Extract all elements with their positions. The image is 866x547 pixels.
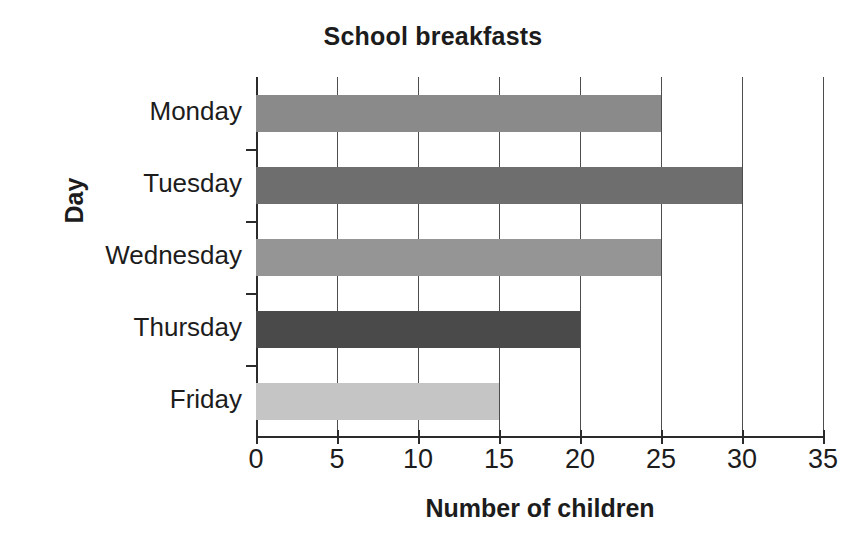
bar-tuesday: [256, 167, 742, 204]
bar-monday: [256, 95, 661, 132]
y-tick-mark-4: [246, 365, 258, 367]
gridline-30: [742, 77, 743, 437]
x-tick-mark-15: [499, 430, 501, 444]
x-tick-label-0: 0: [226, 444, 286, 475]
bar-chart: School breakfasts Day 05101520253035 Mon…: [0, 0, 866, 547]
bar-friday: [256, 383, 499, 420]
y-category-label-tuesday: Tuesday: [0, 168, 242, 199]
x-tick-label-25: 25: [631, 444, 691, 475]
bar-thursday: [256, 311, 580, 348]
x-tick-mark-20: [580, 430, 582, 444]
x-tick-mark-5: [337, 430, 339, 444]
x-axis-title: Number of children: [256, 494, 824, 523]
x-tick-label-15: 15: [469, 444, 529, 475]
x-tick-label-5: 5: [307, 444, 367, 475]
x-tick-mark-35: [823, 430, 825, 444]
y-category-label-thursday: Thursday: [0, 312, 242, 343]
x-axis-line: [256, 436, 824, 438]
chart-title: School breakfasts: [0, 22, 866, 51]
x-tick-mark-30: [742, 430, 744, 444]
y-tick-mark-3: [246, 293, 258, 295]
y-tick-mark-1: [246, 149, 258, 151]
x-tick-label-30: 30: [712, 444, 772, 475]
x-tick-label-35: 35: [793, 444, 853, 475]
y-tick-mark-2: [246, 221, 258, 223]
gridline-35: [823, 77, 824, 437]
x-tick-mark-0: [256, 430, 258, 444]
x-tick-mark-10: [418, 430, 420, 444]
y-category-label-friday: Friday: [0, 384, 242, 415]
x-tick-label-20: 20: [550, 444, 610, 475]
x-tick-label-10: 10: [388, 444, 448, 475]
bar-wednesday: [256, 239, 661, 276]
y-category-label-wednesday: Wednesday: [0, 240, 242, 271]
gridline-25: [661, 77, 662, 437]
plot-area: [256, 77, 823, 437]
x-tick-mark-25: [661, 430, 663, 444]
y-category-label-monday: Monday: [0, 96, 242, 127]
